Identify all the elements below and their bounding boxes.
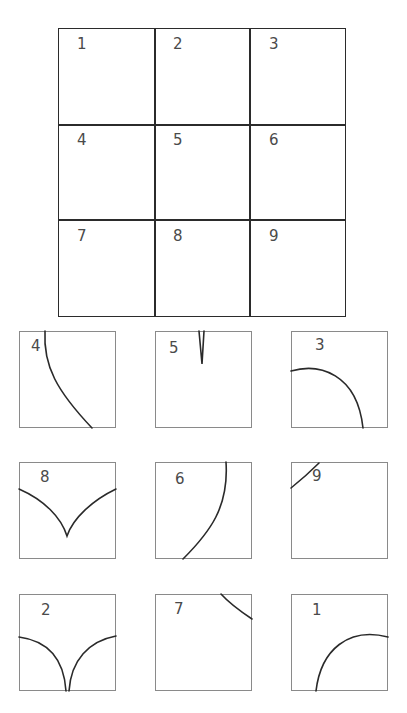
piece-curve xyxy=(155,331,252,428)
puzzle-piece-4[interactable]: 4 xyxy=(19,331,116,428)
cell-number: 6 xyxy=(269,131,279,149)
grid-cell-7[interactable]: 7 xyxy=(59,221,155,317)
piece-curve xyxy=(291,462,388,559)
cell-number: 4 xyxy=(77,131,87,149)
puzzle-piece-5[interactable]: 5 xyxy=(155,331,252,428)
grid-cell-3[interactable]: 3 xyxy=(251,29,347,125)
piece-curve xyxy=(291,331,388,428)
grid-cell-2[interactable]: 2 xyxy=(155,29,251,125)
cell-number: 3 xyxy=(269,35,279,53)
piece-curve xyxy=(19,594,116,691)
cell-number: 2 xyxy=(173,35,183,53)
puzzle-piece-2[interactable]: 2 xyxy=(19,594,116,691)
grid-cell-4[interactable]: 4 xyxy=(59,125,155,221)
piece-curve xyxy=(155,462,252,559)
puzzle-piece-8[interactable]: 8 xyxy=(19,462,116,559)
cell-number: 8 xyxy=(173,227,183,245)
cell-number: 7 xyxy=(77,227,87,245)
puzzle-piece-3[interactable]: 3 xyxy=(291,331,388,428)
piece-curve xyxy=(155,594,252,691)
puzzle-piece-1[interactable]: 1 xyxy=(291,594,388,691)
cell-number: 1 xyxy=(77,35,87,53)
puzzle-grid: 1 2 3 4 5 6 7 8 9 xyxy=(58,28,346,317)
grid-cell-5[interactable]: 5 xyxy=(155,125,251,221)
cell-number: 9 xyxy=(269,227,279,245)
puzzle-piece-9[interactable]: 9 xyxy=(291,462,388,559)
grid-cell-6[interactable]: 6 xyxy=(251,125,347,221)
piece-curve xyxy=(291,594,388,691)
puzzle-piece-7[interactable]: 7 xyxy=(155,594,252,691)
grid-cell-8[interactable]: 8 xyxy=(155,221,251,317)
piece-curve xyxy=(19,462,116,559)
grid-cell-1[interactable]: 1 xyxy=(59,29,155,125)
puzzle-piece-6[interactable]: 6 xyxy=(155,462,252,559)
grid-cell-9[interactable]: 9 xyxy=(251,221,347,317)
piece-curve xyxy=(19,331,116,428)
cell-number: 5 xyxy=(173,131,183,149)
